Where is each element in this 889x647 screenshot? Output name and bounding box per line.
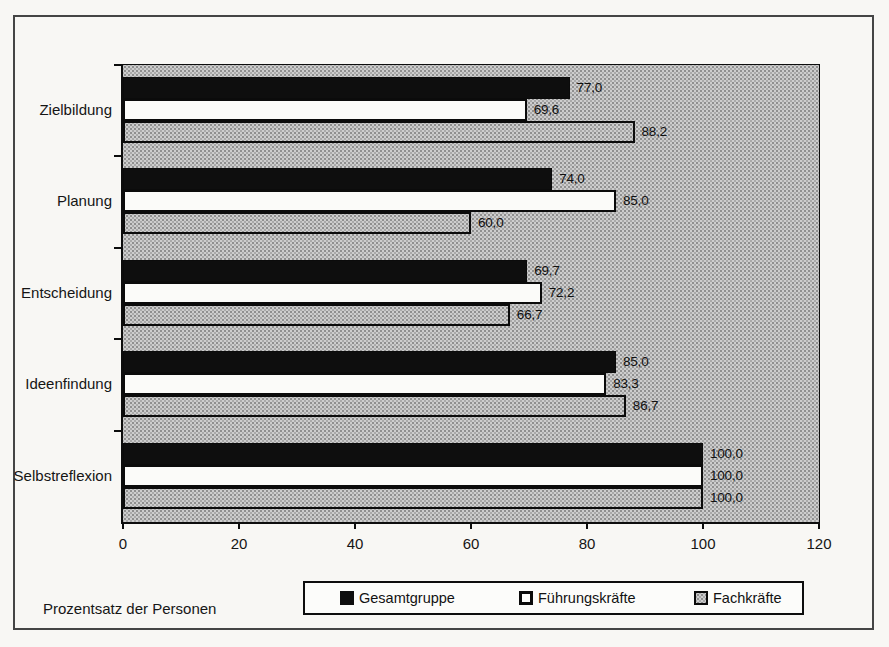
- y-axis-tick: [114, 247, 123, 249]
- category-label: Planung: [12, 192, 112, 210]
- bar-fachkräfte: [123, 121, 635, 143]
- bar-führungskräfte: [123, 99, 527, 121]
- bar-value-label: 86,7: [633, 399, 658, 413]
- bar-value-label: 83,3: [613, 377, 638, 391]
- x-axis-tick: [470, 522, 472, 529]
- x-axis-tick: [354, 522, 356, 529]
- bar-fachkräfte: [123, 212, 471, 234]
- legend-label: Gesamtgruppe: [359, 590, 455, 606]
- legend-item-führungskräfte: Führungskräfte: [519, 590, 636, 606]
- x-axis-tick-label: 120: [797, 536, 841, 552]
- bar-value-label: 74,0: [559, 172, 584, 186]
- bar-führungskräfte: [123, 282, 542, 304]
- bar-value-label: 85,0: [623, 194, 648, 208]
- legend-swatch-black: [340, 591, 354, 605]
- bar-value-label: 60,0: [478, 216, 503, 230]
- y-axis-tick: [114, 430, 123, 432]
- bar-value-label: 88,2: [642, 125, 667, 139]
- legend-swatch-white: [519, 591, 533, 605]
- x-axis-tick-label: 20: [217, 536, 261, 552]
- plot-area: 77,069,688,274,085,060,069,772,266,785,0…: [121, 64, 820, 524]
- category-label: Entscheidung: [12, 284, 112, 302]
- bar-führungskräfte: [123, 190, 616, 212]
- x-axis-tick-label: 100: [681, 536, 725, 552]
- legend: GesamtgruppeFührungskräfteFachkräfte: [303, 581, 804, 615]
- bar-gesamtgruppe: [123, 351, 616, 373]
- bar-fachkräfte: [123, 487, 703, 509]
- x-axis-tick: [586, 522, 588, 529]
- bar-value-label: 100,0: [710, 491, 743, 505]
- bar-value-label: 72,2: [549, 286, 574, 300]
- legend-item-fachkräfte: Fachkräfte: [694, 590, 782, 606]
- legend-label: Fachkräfte: [713, 590, 782, 606]
- x-axis-tick-label: 0: [101, 536, 145, 552]
- bar-führungskräfte: [123, 465, 703, 487]
- category-label: Selbstreflexion: [12, 467, 112, 485]
- bar-fachkräfte: [123, 395, 626, 417]
- bar-value-label: 66,7: [517, 308, 542, 322]
- bar-gesamtgruppe: [123, 168, 552, 190]
- bar-value-label: 100,0: [710, 469, 743, 483]
- legend-swatch-gray: [694, 591, 708, 605]
- bar-gesamtgruppe: [123, 260, 527, 282]
- x-axis-tick-label: 40: [333, 536, 377, 552]
- bar-value-label: 100,0: [710, 447, 743, 461]
- y-axis-tick: [114, 338, 123, 340]
- y-axis-tick: [114, 155, 123, 157]
- bar-value-label: 77,0: [577, 81, 602, 95]
- bar-gesamtgruppe: [123, 77, 570, 99]
- x-axis-tick: [122, 522, 124, 529]
- legend-label: Führungskräfte: [538, 590, 636, 606]
- bar-führungskräfte: [123, 373, 606, 395]
- chart-figure: 77,069,688,274,085,060,069,772,266,785,0…: [0, 0, 889, 647]
- bar-value-label: 69,6: [534, 103, 559, 117]
- category-label: Zielbildung: [12, 101, 112, 119]
- x-axis-tick: [818, 522, 820, 529]
- legend-item-gesamtgruppe: Gesamtgruppe: [340, 590, 455, 606]
- x-axis-tick-label: 80: [565, 536, 609, 552]
- bar-value-label: 85,0: [623, 355, 648, 369]
- x-axis-tick: [238, 522, 240, 529]
- axis-title: Prozentsatz der Personen: [43, 600, 216, 618]
- y-axis-tick: [114, 64, 123, 66]
- bar-value-label: 69,7: [534, 264, 559, 278]
- category-label: Ideenfindung: [12, 375, 112, 393]
- bar-gesamtgruppe: [123, 443, 703, 465]
- bar-fachkräfte: [123, 304, 510, 326]
- x-axis-tick-label: 60: [449, 536, 493, 552]
- x-axis-tick: [702, 522, 704, 529]
